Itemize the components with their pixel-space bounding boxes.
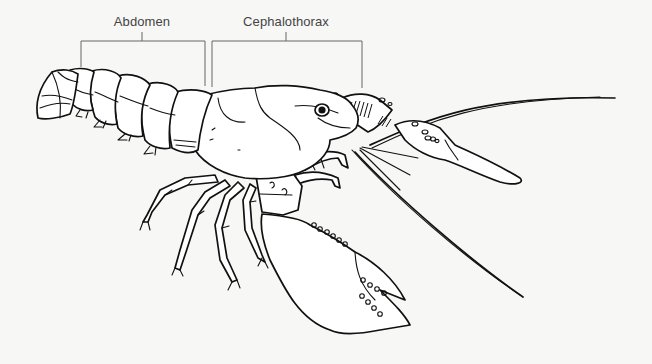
abdomen-segments	[68, 69, 212, 153]
eye	[315, 104, 329, 116]
crayfish-diagram: Abdomen Cephalothorax	[0, 0, 652, 364]
antenna-long	[352, 97, 615, 297]
crayfish-illustration	[0, 0, 652, 364]
tail-fan	[37, 70, 78, 119]
carapace	[193, 86, 358, 179]
far-claw	[395, 121, 521, 184]
cephalothorax-bracket	[212, 32, 362, 88]
walking-legs	[140, 175, 268, 290]
large-claw	[261, 214, 410, 334]
